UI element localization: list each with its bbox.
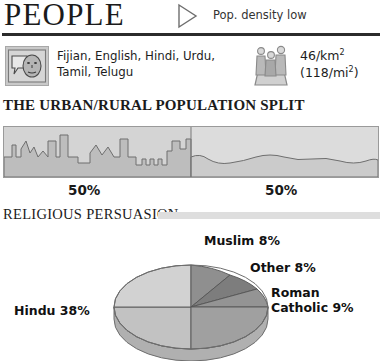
religion-heading-rule [158, 212, 380, 219]
three-people-icon [249, 45, 293, 87]
density-imperial-suffix: ) [354, 65, 359, 80]
density-flag-label: Pop. density low [213, 8, 307, 22]
pie-label-roman-catholic-line1: Roman [271, 285, 320, 300]
header-divider [2, 33, 380, 36]
urban-rural-split-graphic [3, 126, 379, 178]
pie-label-roman-catholic-line2: Catholic 9% [271, 300, 354, 315]
urban-percentage-label: 50% [68, 182, 100, 198]
religion-chart-area: Muslim 8% Other 8% Roman Catholic 9% Hin… [0, 225, 382, 361]
info-row: Fijian, English, Hindi, Urdu, Tamil, Tel… [0, 44, 382, 92]
rural-percentage-label: 50% [265, 182, 297, 198]
languages-list: Fijian, English, Hindi, Urdu, Tamil, Tel… [57, 48, 237, 80]
religion-heading: RELIGIOUS PERSUASION [3, 206, 179, 223]
speech-face-icon [5, 46, 49, 86]
density-metric: 46/km [300, 48, 340, 63]
page-title: PEOPLE [4, 0, 125, 32]
pie-label-roman-catholic: Roman Catholic 9% [271, 285, 379, 315]
triangle-right-icon [177, 3, 199, 29]
population-density-value: 46/km2 (118/mi2) [300, 47, 359, 81]
density-metric-superscript: 2 [340, 48, 345, 57]
pie-label-other: Other 8% [250, 260, 316, 275]
pie-label-hindu: Hindu 38% [14, 303, 90, 318]
page-header: PEOPLE Pop. density low [0, 0, 382, 38]
density-imperial-prefix: (118/mi [300, 65, 349, 80]
urban-rural-heading: THE URBAN/RURAL POPULATION SPLIT [3, 97, 305, 114]
pie-label-muslim: Muslim 8% [204, 233, 280, 248]
religion-pie-chart [112, 253, 270, 361]
